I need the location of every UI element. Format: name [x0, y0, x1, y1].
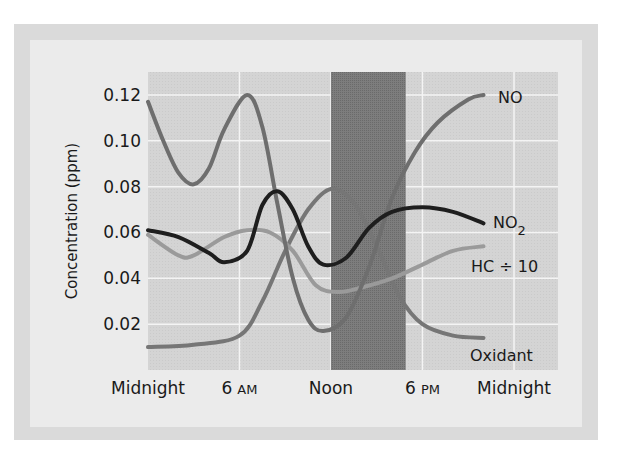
x-tick-label: Midnight — [477, 378, 551, 398]
shaded-daylight-band — [331, 72, 406, 370]
series-label-no: NO — [498, 88, 523, 107]
x-tick-label: 6AM — [222, 378, 258, 398]
y-tick-label: 0.12 — [103, 85, 141, 105]
y-tick-label: 0.10 — [103, 131, 141, 151]
x-tick-label: 6PM — [405, 378, 440, 398]
series-label-oxidant: Oxidant — [470, 346, 533, 365]
x-axis-ticks: Midnight6AMNoon6PMMidnight — [111, 378, 551, 398]
y-axis-ticks: 0.020.040.060.080.100.12 — [103, 85, 141, 334]
series-label-hc-10: HC ÷ 10 — [471, 257, 538, 276]
x-tick-label: Midnight — [111, 378, 185, 398]
y-tick-label: 0.08 — [103, 177, 141, 197]
y-axis-title: Concentration (ppm) — [63, 143, 81, 299]
y-tick-label: 0.02 — [103, 314, 141, 334]
y-tick-label: 0.06 — [103, 222, 141, 242]
y-tick-label: 0.04 — [103, 268, 141, 288]
x-tick-label: Noon — [309, 378, 353, 398]
chart: 0.020.040.060.080.100.12 Midnight6AMNoon… — [0, 0, 618, 456]
